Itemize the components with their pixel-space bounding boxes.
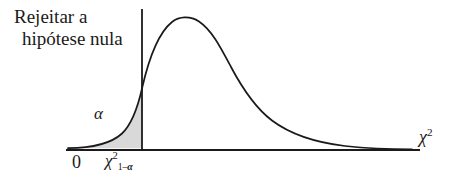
critical-value-label: χ21–α xyxy=(105,150,132,173)
callout-line-2: hipótese nula xyxy=(14,28,123,50)
axis-chi-glyph: χ xyxy=(419,127,427,147)
x-axis-title: χ2 xyxy=(419,126,433,148)
critical-subscript-alpha: α xyxy=(127,161,132,172)
critical-subscript: 1–α xyxy=(118,161,133,172)
critical-exponent: 2 xyxy=(112,150,117,161)
origin-value: 0 xyxy=(72,152,81,172)
chi-square-rejection-region-figure: Rejeitar a hipótese nula α 0 χ21–α χ2 xyxy=(0,0,455,185)
x-axis-origin-label: 0 xyxy=(72,152,81,173)
rejection-region-shading xyxy=(68,89,142,149)
reject-null-hypothesis-callout: Rejeitar a hipótese nula xyxy=(14,6,123,51)
alpha-area-label: α xyxy=(94,104,103,124)
axis-exponent: 2 xyxy=(427,126,433,138)
alpha-symbol: α xyxy=(94,104,103,123)
callout-line-1: Rejeitar a xyxy=(14,6,123,28)
